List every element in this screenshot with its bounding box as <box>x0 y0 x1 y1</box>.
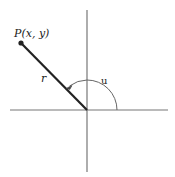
point-p-marker <box>18 40 23 45</box>
arc-arrowhead-icon <box>66 86 72 90</box>
angle-arc <box>70 80 118 110</box>
angle-label: u <box>101 76 107 86</box>
radius-label: r <box>41 73 46 84</box>
polar-coordinate-diagram: P(x, y) r u <box>0 0 175 177</box>
point-label: P(x, y) <box>14 28 49 39</box>
radius-segment <box>21 43 87 110</box>
